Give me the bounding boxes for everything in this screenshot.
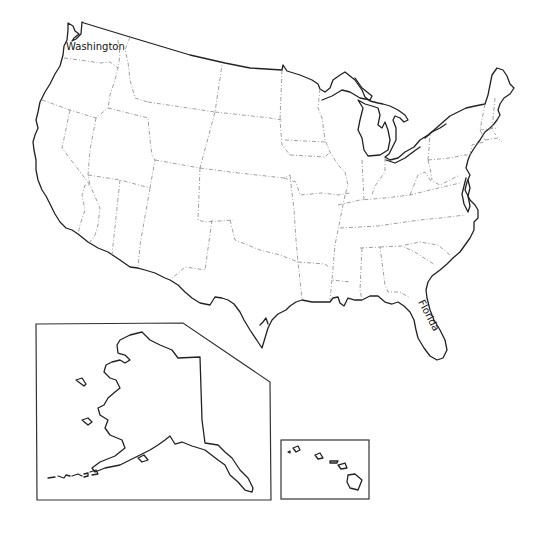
hawaii-molokai: [330, 461, 338, 463]
galveston-bay-detail: [260, 318, 268, 325]
alaska-inset: [36, 323, 271, 500]
michigan-lower-peninsula: [358, 100, 390, 156]
hawaii-kauai: [293, 446, 300, 452]
state-borders: [42, 37, 502, 300]
hawaii-maui: [338, 463, 347, 469]
hawaii-big-island: [347, 474, 362, 490]
alaska-island-nunivak: [82, 418, 92, 425]
chesapeake-bay: [462, 178, 470, 212]
hawaii-inset: [281, 440, 369, 499]
lake-ontario-shore: [425, 124, 446, 138]
florida-label: Florida: [416, 298, 442, 333]
aleutian-islands: [48, 470, 98, 478]
alaska-outline: [92, 332, 253, 492]
contiguous-us-outline: [33, 22, 514, 360]
alaska-island-kodiak: [138, 455, 148, 462]
washington-label: Washington: [66, 41, 125, 52]
hawaii-niihau: [288, 451, 290, 453]
alaska-inset-frame: [36, 323, 271, 500]
alaska-island-stlawrence: [76, 378, 86, 386]
us-outline-map: Washington Florida: [0, 0, 546, 538]
hawaii-oahu: [315, 453, 323, 459]
